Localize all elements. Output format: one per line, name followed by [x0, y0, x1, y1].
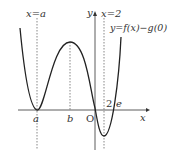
- label-b: b: [67, 113, 73, 124]
- label-two: 2: [106, 98, 112, 109]
- label-origin: O: [86, 113, 94, 124]
- label-e: e: [116, 98, 122, 109]
- label-curve: y=f(x)−g(0): [109, 22, 167, 33]
- function-graph: x=a y x=2 y=f(x)−g(0) a b O 2 e x: [0, 0, 183, 161]
- label-x-eq-a: x=a: [26, 8, 46, 19]
- label-x-axis: x: [140, 112, 146, 123]
- x-axis-arrow: [146, 108, 150, 112]
- label-y-axis: y: [86, 7, 93, 18]
- y-axis-arrow: [93, 11, 97, 16]
- label-a: a: [33, 113, 39, 124]
- label-x-eq-2: x=2: [101, 8, 121, 19]
